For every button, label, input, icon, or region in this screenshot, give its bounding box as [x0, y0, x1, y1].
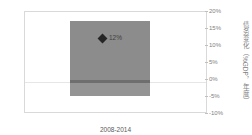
y-tick-label-0: 0% [209, 76, 229, 82]
y-tick-dash-neg10 [205, 113, 208, 114]
y-tick-dash-5 [205, 62, 208, 63]
y-tick-dash-0 [205, 79, 208, 80]
plot-area: 12% [24, 11, 207, 113]
y-tick-dash-neg5 [205, 96, 208, 97]
range-box-lower [70, 82, 150, 96]
x-category-label-2008-2014: 2008-2014 [100, 126, 131, 133]
y-tick-label-5: 5% [209, 59, 229, 65]
y-tick-label-20: 20% [209, 8, 229, 14]
diamond-marker-icon [98, 34, 108, 44]
chart-container: 12% 20% 15% 10% 5% 0% -5% -10% 债务变化（%GDP… [0, 0, 252, 135]
y-tick-label-10: 10% [209, 42, 229, 48]
y-axis-title-text: 债务变化（%GDP，年度） [242, 21, 249, 104]
y-tick-label-15: 15% [209, 25, 229, 31]
y-tick-label-neg10: -10% [209, 110, 229, 116]
y-axis-title: 债务变化（%GDP，年度） [239, 11, 251, 113]
y-tick-dash-15 [205, 28, 208, 29]
y-tick-dash-10 [205, 45, 208, 46]
data-point-group[interactable]: 12% [99, 35, 122, 42]
y-axis-tick-labels: 20% 15% 10% 5% 0% -5% -10% [209, 11, 229, 113]
range-box-upper [70, 21, 150, 82]
x-axis-labels: 2008-2014 [24, 118, 207, 135]
median-line [70, 80, 150, 83]
data-point-value-label: 12% [109, 35, 122, 42]
y-tick-label-neg5: -5% [209, 93, 229, 99]
y-tick-dash-20 [205, 11, 208, 12]
